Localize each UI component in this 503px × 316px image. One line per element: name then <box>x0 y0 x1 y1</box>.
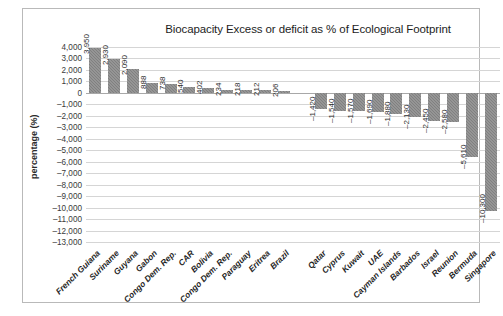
bar-value-label: 212 <box>252 83 261 96</box>
bar-value-label: –10,300 <box>478 194 487 223</box>
bar-series: 3,950French Guiana2,930Suriname2,090Guya… <box>86 47 500 242</box>
bar-value-label: –1,880 <box>383 102 392 126</box>
bar-group[interactable]: –1,540Cyprus <box>331 47 350 242</box>
bar-group[interactable]: 402Bolivia <box>199 47 218 242</box>
bar-value-label: 540 <box>176 79 185 92</box>
bar[interactable] <box>89 48 101 93</box>
bar-group[interactable]: –1,690UAE <box>368 47 387 242</box>
bar-value-label: –1,420 <box>308 97 317 121</box>
bar-value-label: 738 <box>158 77 167 90</box>
y-axis-tick-label: –12,000 <box>36 226 82 235</box>
bar-value-label: –2,580 <box>440 110 449 134</box>
bar-group[interactable]: 234Congo Dem. Rep. <box>218 47 237 242</box>
bar-value-label: 3,950 <box>82 34 91 54</box>
bar[interactable] <box>315 93 327 109</box>
y-axis-tick-label: –4,000 <box>36 134 82 143</box>
bar-group[interactable]: 218Paraguay <box>237 47 256 242</box>
y-axis-tick-label: –9,000 <box>36 192 82 201</box>
bar-value-label: –1,570 <box>346 98 355 122</box>
x-axis-category-label: Brazil <box>267 248 290 271</box>
y-axis-tick-label: 1,000 <box>36 77 82 86</box>
y-axis-tick-label: –5,000 <box>36 146 82 155</box>
bar[interactable] <box>409 93 421 117</box>
chart-title: Biocapacity Excess or deficit as % of Ec… <box>143 23 473 35</box>
bar-value-label: 402 <box>195 81 204 94</box>
gridline: –13,000 <box>86 242 500 243</box>
bar-value-label: 218 <box>233 83 242 96</box>
bar-group[interactable]: –1,880Cayman Islands <box>387 47 406 242</box>
y-axis-tick-label: –2,000 <box>36 111 82 120</box>
bar-group[interactable]: 212Eritrea <box>255 47 274 242</box>
bar-value-label: –5,610 <box>459 145 468 169</box>
bar-group[interactable]: 738Congo Dem. Rep. <box>161 47 180 242</box>
bar[interactable] <box>183 87 195 93</box>
y-axis-tick-label: 0 <box>36 88 82 97</box>
bar[interactable] <box>108 59 120 93</box>
chart-frame: Biocapacity Excess or deficit as % of Ec… <box>22 8 480 303</box>
y-axis-tick-label: –10,000 <box>36 203 82 212</box>
bar-group[interactable]: –10,300Singapore <box>481 47 500 242</box>
y-axis-tick-label: –1,000 <box>36 100 82 109</box>
bar-group[interactable]: 540CAR <box>180 47 199 242</box>
y-axis-tick-label: –13,000 <box>36 238 82 247</box>
y-axis-tick-label: –3,000 <box>36 123 82 132</box>
bar-group[interactable]: 206Brazil <box>274 47 293 242</box>
bar-group[interactable]: –1,420Qatar <box>312 47 331 242</box>
bar[interactable] <box>202 88 214 93</box>
bar-value-label: 2,930 <box>101 45 110 65</box>
bar-value-label: –2,130 <box>402 105 411 129</box>
y-axis-tick-label: 2,000 <box>36 65 82 74</box>
plot-area: 4,0003,0002,0001,0000–1,000–2,000–3,000–… <box>86 47 500 242</box>
bar-group[interactable]: –2,450Israel <box>425 47 444 242</box>
bar-value-label: –1,540 <box>327 98 336 122</box>
bar-group[interactable]: 2,930Suriname <box>105 47 124 242</box>
bar-value-label: 234 <box>214 83 223 96</box>
y-axis-tick-label: 4,000 <box>36 43 82 52</box>
bar-group[interactable]: –1,570Kuwait <box>349 47 368 242</box>
bar-value-label: 888 <box>139 75 148 88</box>
bar-value-label: 206 <box>271 83 280 96</box>
y-axis-tick-label: 3,000 <box>36 54 82 63</box>
bar-group[interactable]: –2,130Barbados <box>406 47 425 242</box>
bar[interactable] <box>390 93 402 115</box>
bar-group[interactable]: 3,950French Guiana <box>86 47 105 242</box>
bar-value-label: –2,450 <box>421 109 430 133</box>
bar-value-label: –1,690 <box>365 100 374 124</box>
y-axis-tick-label: –7,000 <box>36 169 82 178</box>
y-axis-tick-label: –11,000 <box>36 215 82 224</box>
y-axis-tick-label: –8,000 <box>36 180 82 189</box>
y-axis-tick-label: –6,000 <box>36 157 82 166</box>
bar-group[interactable] <box>293 47 312 242</box>
bar-value-label: 2,090 <box>120 55 129 75</box>
